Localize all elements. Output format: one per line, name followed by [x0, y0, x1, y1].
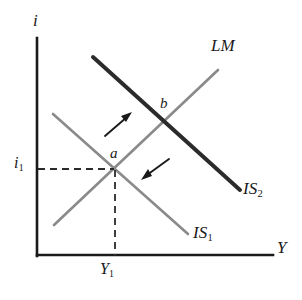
- is1-curve-label-subscript: 1: [207, 232, 212, 243]
- is2-curve-label-text: IS: [243, 179, 257, 198]
- x-axis-label: Y: [277, 239, 286, 256]
- excess-demand-arrow-icon: [105, 112, 132, 136]
- is2-curve-label: IS2: [243, 180, 262, 197]
- x-tick-label-text: Y: [100, 260, 109, 277]
- x-tick-label-subscript: 1: [109, 268, 114, 279]
- y-tick-label-text: i: [14, 154, 18, 171]
- x-tick-label-y1: Y1: [100, 261, 114, 277]
- lm-curve-label: LM: [211, 37, 235, 54]
- is-lm-diagram: i Y LM IS2 IS1 a b i1 Y1: [0, 0, 302, 300]
- point-b-label: b: [160, 96, 168, 111]
- point-a-label: a: [110, 146, 118, 161]
- is2-curve-label-subscript: 2: [257, 188, 262, 199]
- y-tick-label-subscript: 1: [19, 162, 24, 173]
- is1-curve: [53, 114, 188, 234]
- excess-supply-arrow-icon: [141, 159, 169, 180]
- is1-curve-label: IS1: [193, 224, 212, 241]
- diagram-canvas: [0, 0, 302, 300]
- is1-curve-label-text: IS: [193, 223, 207, 242]
- y-axis-label: i: [33, 12, 38, 29]
- y-tick-label-i1: i1: [14, 155, 23, 171]
